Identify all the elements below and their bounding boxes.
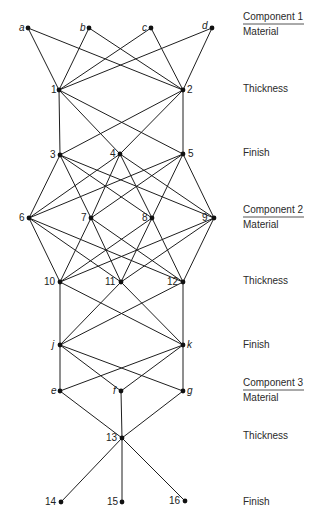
node-label-f: f [113, 385, 117, 396]
stage-label: Thickness [243, 83, 288, 94]
node-label-7: 7 [81, 212, 87, 223]
node-label-5: 5 [188, 148, 194, 159]
stage-label: Thickness [243, 275, 288, 286]
edges-group [28, 28, 214, 502]
node-label-g: g [187, 385, 193, 396]
node-6 [27, 216, 32, 221]
node-label-b: b [80, 22, 86, 33]
node-label-6: 6 [19, 212, 25, 223]
node-label-a: a [19, 22, 25, 33]
node-13 [120, 436, 125, 441]
node-15 [120, 500, 125, 505]
edge-9-10 [60, 218, 214, 282]
node-label-14: 14 [45, 496, 57, 507]
node-label-9: 9 [202, 212, 208, 223]
stage-label: Material [243, 26, 279, 37]
network-diagram: abcd123456789101112jkefg13141516 Compone… [0, 0, 322, 520]
stage-label: Component 3 [243, 377, 303, 388]
edge-5-8 [152, 154, 183, 218]
node-5 [181, 152, 186, 157]
stage-label: Finish [243, 496, 270, 507]
node-g [181, 389, 186, 394]
node-14 [59, 500, 64, 505]
edge-11-j [60, 282, 121, 345]
stage-label: Material [243, 392, 279, 403]
edge-b-1 [59, 28, 89, 90]
edge-1-3 [59, 90, 60, 155]
stage-label: Finish [243, 339, 270, 350]
edge-5-9 [183, 154, 214, 218]
node-label-4: 4 [110, 148, 116, 159]
edge-11-k [121, 282, 183, 345]
edge-6-10 [29, 218, 60, 282]
node-3 [58, 153, 63, 158]
node-label-d: d [202, 20, 208, 31]
node-j [58, 343, 63, 348]
node-label-16: 16 [169, 495, 181, 506]
node-7 [89, 216, 94, 221]
node-label-3: 3 [50, 149, 56, 160]
edge-13-16 [122, 438, 185, 501]
edge-c-1 [59, 28, 151, 90]
node-2 [181, 88, 186, 93]
node-label-k: k [187, 339, 193, 350]
node-label-e: e [51, 385, 57, 396]
edge-d-1 [59, 28, 212, 90]
node-4 [118, 152, 123, 157]
edge-13-14 [61, 438, 122, 502]
node-a [26, 26, 31, 31]
edge-3-7 [60, 155, 91, 218]
node-label-15: 15 [107, 496, 119, 507]
node-c [149, 26, 154, 31]
node-12 [181, 280, 186, 285]
stage-label: Component 1 [243, 11, 303, 22]
node-e [58, 389, 63, 394]
edge-k-f [121, 345, 183, 391]
node-d [210, 26, 215, 31]
node-16 [183, 499, 188, 504]
stage-label: Finish [243, 147, 270, 158]
node-f [119, 389, 124, 394]
node-9 [212, 216, 217, 221]
edge-3-6 [29, 155, 60, 218]
edge-a-1 [28, 28, 59, 90]
node-8 [150, 216, 155, 221]
node-label-c: c [142, 22, 147, 33]
node-1 [57, 88, 62, 93]
stage-label: Thickness [243, 430, 288, 441]
node-label-8: 8 [142, 212, 148, 223]
edge-d-2 [183, 28, 212, 90]
node-10 [58, 280, 63, 285]
stage-labels-group: Component 1MaterialThicknessFinishCompon… [243, 11, 304, 507]
node-11 [119, 280, 124, 285]
nodes-group: abcd123456789101112jkefg13141516 [19, 20, 216, 507]
node-label-1: 1 [51, 84, 57, 95]
node-label-11: 11 [105, 276, 116, 287]
edge-9-11 [121, 218, 214, 282]
edge-g-13 [122, 391, 183, 438]
node-label-j: j [50, 339, 55, 350]
edge-c-2 [151, 28, 183, 90]
node-label-12: 12 [167, 276, 179, 287]
edge-2-4 [120, 90, 183, 154]
edge-9-12 [183, 218, 214, 282]
edge-e-13 [60, 391, 122, 438]
edge-f-13 [121, 391, 122, 438]
node-label-10: 10 [44, 276, 56, 287]
node-k [181, 343, 186, 348]
stage-label: Component 2 [243, 204, 303, 215]
node-label-13: 13 [106, 432, 118, 443]
stage-label: Material [243, 219, 279, 230]
node-b [87, 26, 92, 31]
edge-j-f [60, 345, 121, 391]
edge-4-8 [120, 154, 152, 218]
edge-1-4 [59, 90, 120, 154]
node-label-2: 2 [187, 84, 193, 95]
edge-7-10 [60, 218, 91, 282]
